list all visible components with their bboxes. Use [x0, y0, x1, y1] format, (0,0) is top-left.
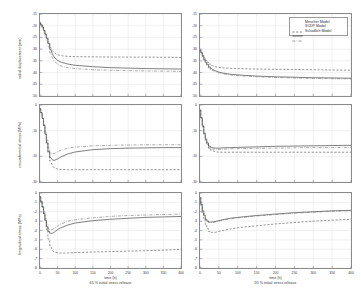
y-tick-label: -6 [185, 247, 197, 251]
plot-area-row1-col1 [40, 14, 181, 96]
y-tick-label: -15 [25, 12, 37, 16]
y-tick-label: -25 [185, 35, 197, 39]
x-tick-label: 350 [155, 271, 171, 275]
y-tick-label: -30 [185, 180, 197, 184]
grid [40, 14, 181, 96]
x-tick-label: 0 [192, 271, 208, 275]
y-tick-label: -45 [25, 82, 37, 86]
y-tick-label: -25 [25, 35, 37, 39]
y-tick-label: -10 [25, 129, 37, 133]
y-tick-label: -20 [185, 24, 197, 28]
plot-panel-row1-col1 [39, 13, 182, 97]
plot-panel-row2-col2 [199, 104, 352, 183]
x-tick-label: 150 [85, 271, 101, 275]
y-tick-label: -7 [25, 257, 37, 261]
grid [40, 105, 181, 182]
plot-area-row3-col2 [200, 193, 351, 268]
x-tick-label: 50 [211, 271, 227, 275]
x-tick-label: 50 [50, 271, 66, 275]
plot-area-row3-col1 [40, 193, 181, 268]
plot-panel-row3-col2 [199, 192, 352, 269]
y-tick-label: -3 [185, 219, 197, 223]
plot-panel-row2-col1 [39, 104, 182, 183]
y-tick-label: -35 [25, 59, 37, 63]
y-tick-label: -5 [25, 238, 37, 242]
x-tick-label: 200 [103, 271, 119, 275]
y-axis-label: longitudinal stress (MPa) [18, 214, 22, 255]
x-tick-label: 400 [343, 271, 359, 275]
y-tick-label: -40 [185, 71, 197, 75]
x-tick-label: 200 [268, 271, 284, 275]
x-tick-label: 250 [286, 271, 302, 275]
x-tick-label: 150 [249, 271, 265, 275]
y-tick-label: -5 [185, 238, 197, 242]
y-axis-label: radial displacement (mm) [18, 37, 22, 79]
y-tick-label: -50 [25, 94, 37, 98]
y-tick-label: -10 [185, 129, 197, 133]
y-tick-label: -2 [25, 210, 37, 214]
y-tick-label: -6 [25, 247, 37, 251]
legend-label: Schädlich Model [305, 29, 331, 34]
x-tick-label: 0 [32, 271, 48, 275]
figure-canvas: -15-20-25-30-35-40-45-50radial displacem… [0, 0, 361, 303]
y-tick-label: -40 [25, 71, 37, 75]
y-tick-label: -50 [185, 94, 197, 98]
y-tick-label: -4 [25, 229, 37, 233]
y-tick-label: -1 [185, 200, 197, 204]
grid [200, 105, 351, 182]
x-tick-label: 400 [173, 271, 189, 275]
x-axis-label: time (h) [199, 276, 352, 280]
x-axis-sublabel: 95 % initial stress release [199, 281, 352, 285]
y-tick-label: 0 [25, 103, 37, 107]
x-tick-label: 300 [305, 271, 321, 275]
x-tick-label: 250 [120, 271, 136, 275]
y-tick-label: -20 [25, 24, 37, 28]
grid [40, 193, 181, 268]
y-tick-label: -30 [185, 47, 197, 51]
x-tick-label: 100 [67, 271, 83, 275]
y-tick-label: -8 [25, 266, 37, 270]
y-tick-label: -7 [185, 257, 197, 261]
x-tick-label: 300 [138, 271, 154, 275]
y-axis-label: circumferential stress (MPa) [18, 121, 22, 167]
plot-area-row2-col2 [200, 105, 351, 182]
x-tick-label: 350 [324, 271, 340, 275]
y-tick-label: -35 [185, 59, 197, 63]
legend-key-dashdot [292, 29, 303, 33]
y-tick-label: 0 [185, 103, 197, 107]
legend-key-dashed [292, 20, 303, 24]
legend: Mirscher ModelSCDP ModelSchädlich Model [289, 17, 348, 36]
x-axis-label: time (h) [39, 276, 182, 280]
legend-key-solid [292, 24, 303, 28]
x-axis-sublabel: 65 % initial stress release [39, 281, 182, 285]
legend-entry: Schädlich Model [292, 29, 345, 34]
y-tick-label: -20 [25, 154, 37, 158]
y-tick-label: -8 [185, 266, 197, 270]
plot-panel-row3-col1 [39, 192, 182, 269]
y-tick-label: -15 [185, 12, 197, 16]
y-tick-label: -3 [25, 219, 37, 223]
y-tick-label: -30 [25, 180, 37, 184]
y-tick-label: -30 [25, 47, 37, 51]
y-tick-label: -2 [185, 210, 197, 214]
y-tick-label: 0 [25, 191, 37, 195]
y-tick-label: -20 [185, 154, 197, 158]
y-tick-label: -4 [185, 229, 197, 233]
x-tick-label: 100 [230, 271, 246, 275]
plot-area-row2-col1 [40, 105, 181, 182]
y-tick-label: -1 [25, 200, 37, 204]
y-tick-label: -45 [185, 82, 197, 86]
y-tick-label: 0 [185, 191, 197, 195]
